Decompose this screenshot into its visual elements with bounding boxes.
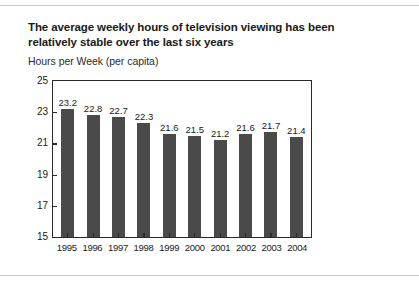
bar-value-label: 22.3: [135, 111, 154, 122]
bar-value-label: 21.7: [262, 120, 281, 131]
x-axis-tick-label: 2003: [259, 240, 285, 256]
bar-value-label: 21.2: [211, 128, 230, 139]
x-axis-tick-slot: [258, 233, 283, 237]
x-axis-tick-label: 1996: [80, 240, 106, 256]
page-title: The average weekly hours of television v…: [28, 20, 348, 50]
x-axis-tick-slot: [55, 233, 80, 237]
bar-value-label: 22.7: [109, 105, 128, 116]
x-axis-tick-slot: [106, 233, 131, 237]
x-axis-tick-label: 2002: [233, 240, 259, 256]
x-axis-tick-slot: [284, 233, 309, 237]
y-axis-tick-label: 25: [37, 75, 48, 86]
bar-column[interactable]: 22.8: [80, 81, 105, 237]
bar-value-label: 21.6: [236, 122, 255, 133]
bar[interactable]: [87, 115, 100, 237]
y-axis-tick-label: 23: [37, 106, 48, 117]
x-axis-tick: [270, 233, 271, 237]
x-axis-tick: [67, 233, 68, 237]
bottom-divider: [0, 275, 419, 276]
page-title-line-1: The average weekly hours of television v…: [28, 21, 305, 33]
bar[interactable]: [61, 109, 74, 237]
x-axis-tick-slot: [80, 233, 105, 237]
x-axis-tick-label: 1998: [131, 240, 157, 256]
x-axis-tick-label: 1997: [105, 240, 131, 256]
bar-column[interactable]: 21.6: [157, 81, 182, 237]
x-axis-tick-slot: [131, 233, 156, 237]
x-axis-tick: [220, 233, 221, 237]
bar-column[interactable]: 21.4: [284, 81, 309, 237]
bar-column[interactable]: 22.3: [131, 81, 156, 237]
bar[interactable]: [137, 123, 150, 237]
bar[interactable]: [214, 140, 227, 237]
bar[interactable]: [188, 136, 201, 237]
bar-value-label: 23.2: [58, 97, 77, 108]
bar[interactable]: [239, 134, 252, 237]
bar-value-label: 21.4: [287, 125, 306, 136]
x-axis-tick-label: 1995: [54, 240, 80, 256]
x-axis-tick-label: 2000: [182, 240, 208, 256]
x-axis-labels: 1995199619971998199920002001200220032004: [52, 240, 312, 256]
x-axis-tick-slot: [182, 233, 207, 237]
bar-column[interactable]: 22.7: [106, 81, 131, 237]
bar-value-label: 21.5: [185, 124, 204, 135]
x-axis-tick-slot: [233, 233, 258, 237]
x-axis-tick-label: 1999: [156, 240, 182, 256]
x-axis-tick: [93, 233, 94, 237]
axis-unit-label: Hours per Week (per capita): [28, 55, 158, 67]
x-axis-tick-slot: [207, 233, 232, 237]
bar-column[interactable]: 21.2: [207, 81, 232, 237]
bar-column[interactable]: 21.6: [233, 81, 258, 237]
x-axis-tick: [245, 233, 246, 237]
bar[interactable]: [112, 117, 125, 237]
x-axis-tick: [169, 233, 170, 237]
chart-page: The average weekly hours of television v…: [0, 0, 419, 287]
top-divider: [0, 5, 419, 6]
y-axis-tick-label: 17: [37, 199, 48, 210]
y-axis-labels: 252321191715: [28, 74, 50, 256]
bar[interactable]: [290, 137, 303, 237]
bar-value-label: 21.6: [160, 122, 179, 133]
x-axis-tick-slot: [157, 233, 182, 237]
x-axis-tick-label: 2001: [208, 240, 234, 256]
x-axis-tick: [296, 233, 297, 237]
bar-column[interactable]: 23.2: [55, 81, 80, 237]
x-axis-ticks: [53, 233, 311, 237]
x-axis-tick: [118, 233, 119, 237]
bar-chart: 252321191715 23.222.822.722.321.621.521.…: [28, 74, 312, 256]
x-axis-tick-label: 2004: [284, 240, 310, 256]
bar-value-label: 22.8: [84, 103, 103, 114]
bar-series: 23.222.822.722.321.621.521.221.621.721.4: [53, 81, 311, 237]
x-axis-tick: [194, 233, 195, 237]
bar-column[interactable]: 21.7: [258, 81, 283, 237]
y-axis-tick-label: 15: [37, 231, 48, 242]
plot-area: 23.222.822.722.321.621.521.221.621.721.4: [52, 80, 312, 238]
y-axis-tick-label: 19: [37, 168, 48, 179]
bar[interactable]: [264, 132, 277, 237]
bar-column[interactable]: 21.5: [182, 81, 207, 237]
x-axis-tick: [143, 233, 144, 237]
bar[interactable]: [163, 134, 176, 237]
y-axis-tick-label: 21: [37, 137, 48, 148]
